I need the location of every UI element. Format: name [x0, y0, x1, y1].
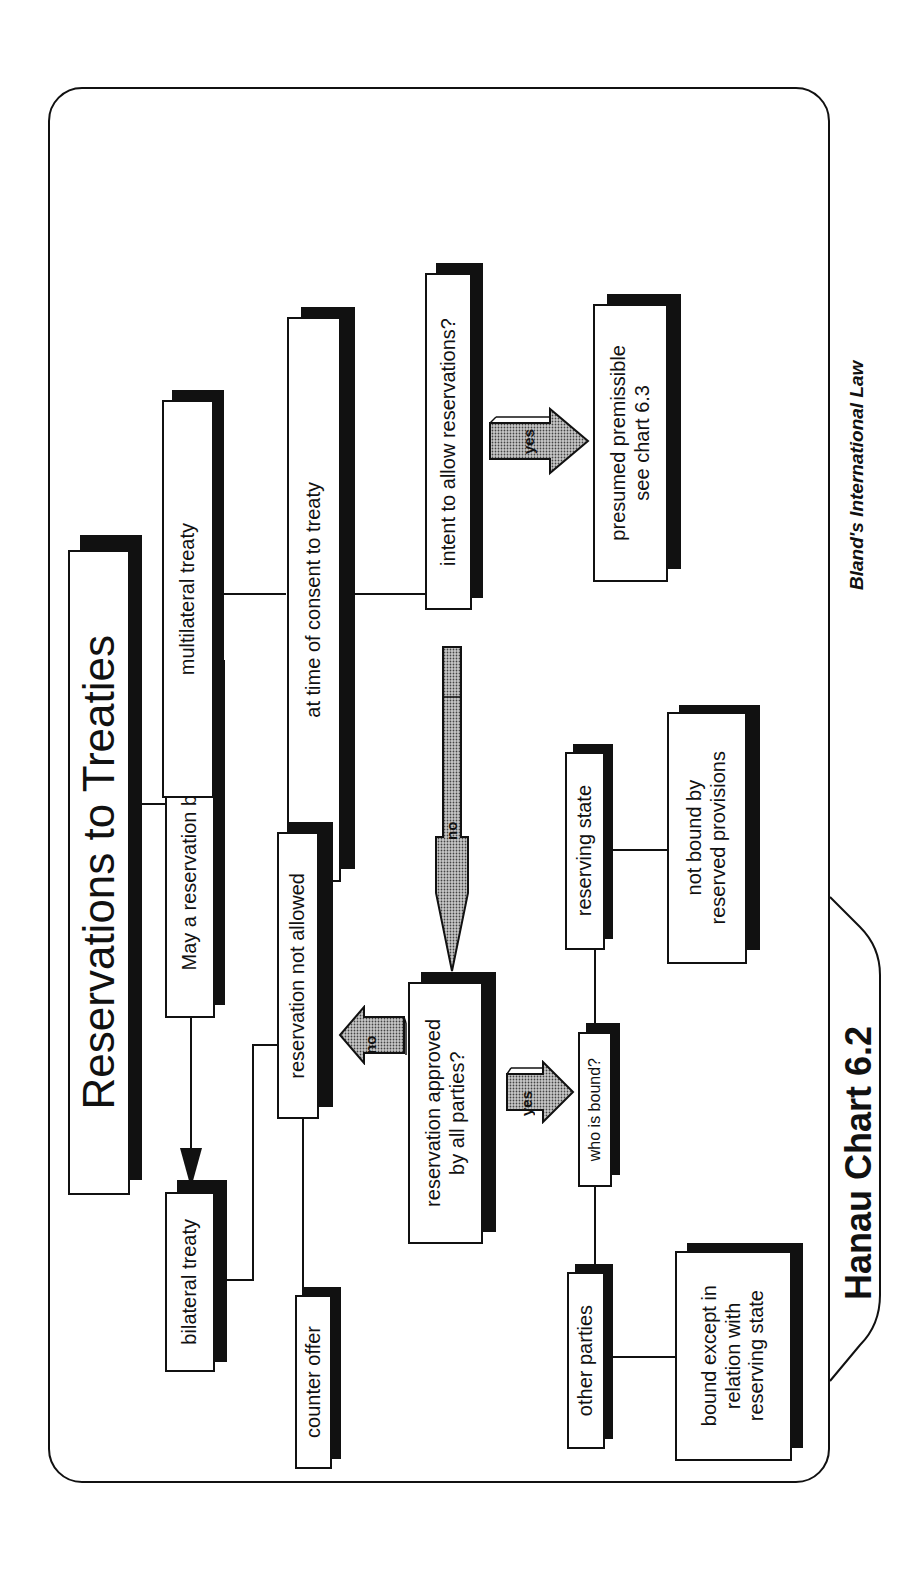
yes-label-approved: yes — [520, 1068, 534, 1116]
connector-title-root — [142, 803, 166, 805]
connector-other-boundexcept — [613, 1356, 676, 1358]
node-approved: reservation approved by all parties? — [408, 972, 496, 1244]
node-not-allowed: reservation not allowed — [277, 822, 333, 1119]
node-multilateral: multilateral treaty — [162, 390, 224, 798]
node-presumed: presumed premissible see chart 6.3 — [593, 294, 681, 582]
node-reserving-state: reserving state — [565, 744, 613, 950]
connector-reserving-notbound — [612, 849, 668, 851]
no-arrow-long-icon — [428, 645, 478, 973]
node-counter-offer: counter offer — [295, 1287, 341, 1469]
credit-text: Bland's International Law — [846, 290, 868, 590]
connector-multilateral-consent — [222, 593, 286, 595]
yes-arrow-icon — [488, 405, 592, 477]
yes-label-intent: yes — [522, 418, 536, 464]
page-title: Reservations to Treaties — [73, 635, 125, 1109]
connector-whobound-other — [594, 1185, 596, 1271]
node-intent: intent to allow reservations? — [425, 263, 483, 610]
connector-whobound-reserving — [594, 948, 596, 1032]
connector-root-bilateral — [190, 1018, 192, 1158]
node-time-of-consent: at time of consent to treaty — [287, 307, 355, 882]
title-box: Reservations to Treaties — [68, 535, 142, 1195]
yes-arrow-short-icon — [503, 1060, 577, 1124]
node-not-bound: not bound by reserved provisions — [667, 705, 760, 964]
connector-bilateral-elbow-a — [227, 1279, 254, 1281]
chart-tab-label: Hanau Chart 6.2 — [838, 1000, 880, 1300]
connector-bilateral-elbow-c — [252, 1044, 278, 1046]
node-who-bound: who is bound? — [578, 1023, 620, 1187]
node-bound-except: bound except in relation with reserving … — [675, 1243, 803, 1461]
node-other-parties: other parties — [567, 1264, 613, 1449]
connector-bilateral-elbow-b — [252, 1044, 254, 1281]
no-label-approved: no — [364, 1018, 378, 1054]
connector-consent-intent — [350, 593, 426, 595]
no-label-intent: no — [444, 810, 460, 840]
node-bilateral: bilateral treaty — [165, 1180, 227, 1372]
connector-notallowed-counter — [302, 1117, 304, 1297]
